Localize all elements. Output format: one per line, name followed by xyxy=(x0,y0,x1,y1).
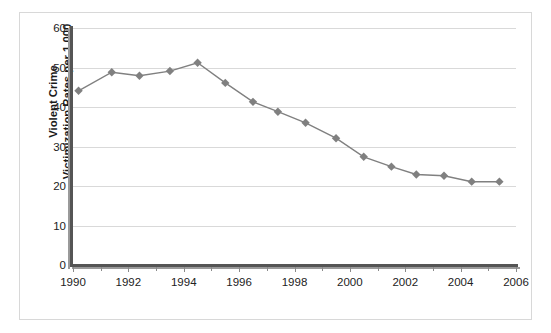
x-tick-mark-1998 xyxy=(295,267,296,272)
x-minor-tick-1991 xyxy=(101,267,102,271)
x-tick-label-1996: 1996 xyxy=(209,276,269,288)
x-tick-mark-1994 xyxy=(184,267,185,272)
x-tick-label-1994: 1994 xyxy=(154,276,214,288)
x-minor-tick-1999 xyxy=(322,267,323,271)
x-tick-label-2000: 2000 xyxy=(320,276,380,288)
x-tick-mark-2000 xyxy=(350,267,351,272)
x-tick-mark-2006 xyxy=(516,267,517,272)
x-tick-label-1998: 1998 xyxy=(265,276,325,288)
y-tick-label-40: 40 xyxy=(26,101,66,113)
y-tick-label-50: 50 xyxy=(26,62,66,74)
x-minor-tick-1995 xyxy=(211,267,212,271)
y-tick-label-20: 20 xyxy=(26,180,66,192)
chart-figure: Violent Crime Victimization Rates per 1,… xyxy=(0,0,551,333)
x-minor-tick-1997 xyxy=(267,267,268,271)
x-tick-label-2004: 2004 xyxy=(431,276,491,288)
x-tick-label-2002: 2002 xyxy=(375,276,435,288)
x-minor-tick-2001 xyxy=(378,267,379,271)
x-minor-tick-2005 xyxy=(488,267,489,271)
gridline-y-20 xyxy=(73,186,516,187)
plot-area xyxy=(73,28,516,265)
x-tick-label-1992: 1992 xyxy=(98,276,158,288)
x-tick-mark-2004 xyxy=(461,267,462,272)
x-tick-label-2006: 2006 xyxy=(486,276,546,288)
y-tick-label-30: 30 xyxy=(26,141,66,153)
gridline-y-50 xyxy=(73,68,516,69)
gridline-y-30 xyxy=(73,147,516,148)
x-tick-label-1990: 1990 xyxy=(43,276,103,288)
gridline-y-40 xyxy=(73,107,516,108)
y-tick-label-0: 0 xyxy=(26,259,66,271)
gridline-y-10 xyxy=(73,226,516,227)
x-tick-mark-2002 xyxy=(405,267,406,272)
x-minor-tick-1993 xyxy=(156,267,157,271)
x-tick-mark-1990 xyxy=(73,267,74,272)
x-axis-shadow xyxy=(72,267,520,269)
y-tick-label-60: 60 xyxy=(26,22,66,34)
gridline-y-60 xyxy=(73,28,516,29)
x-minor-tick-2003 xyxy=(433,267,434,271)
y-tick-label-10: 10 xyxy=(26,220,66,232)
x-tick-mark-1996 xyxy=(239,267,240,272)
y-axis-tick-labels: 0102030405060 xyxy=(22,0,66,300)
x-tick-mark-1992 xyxy=(128,267,129,272)
